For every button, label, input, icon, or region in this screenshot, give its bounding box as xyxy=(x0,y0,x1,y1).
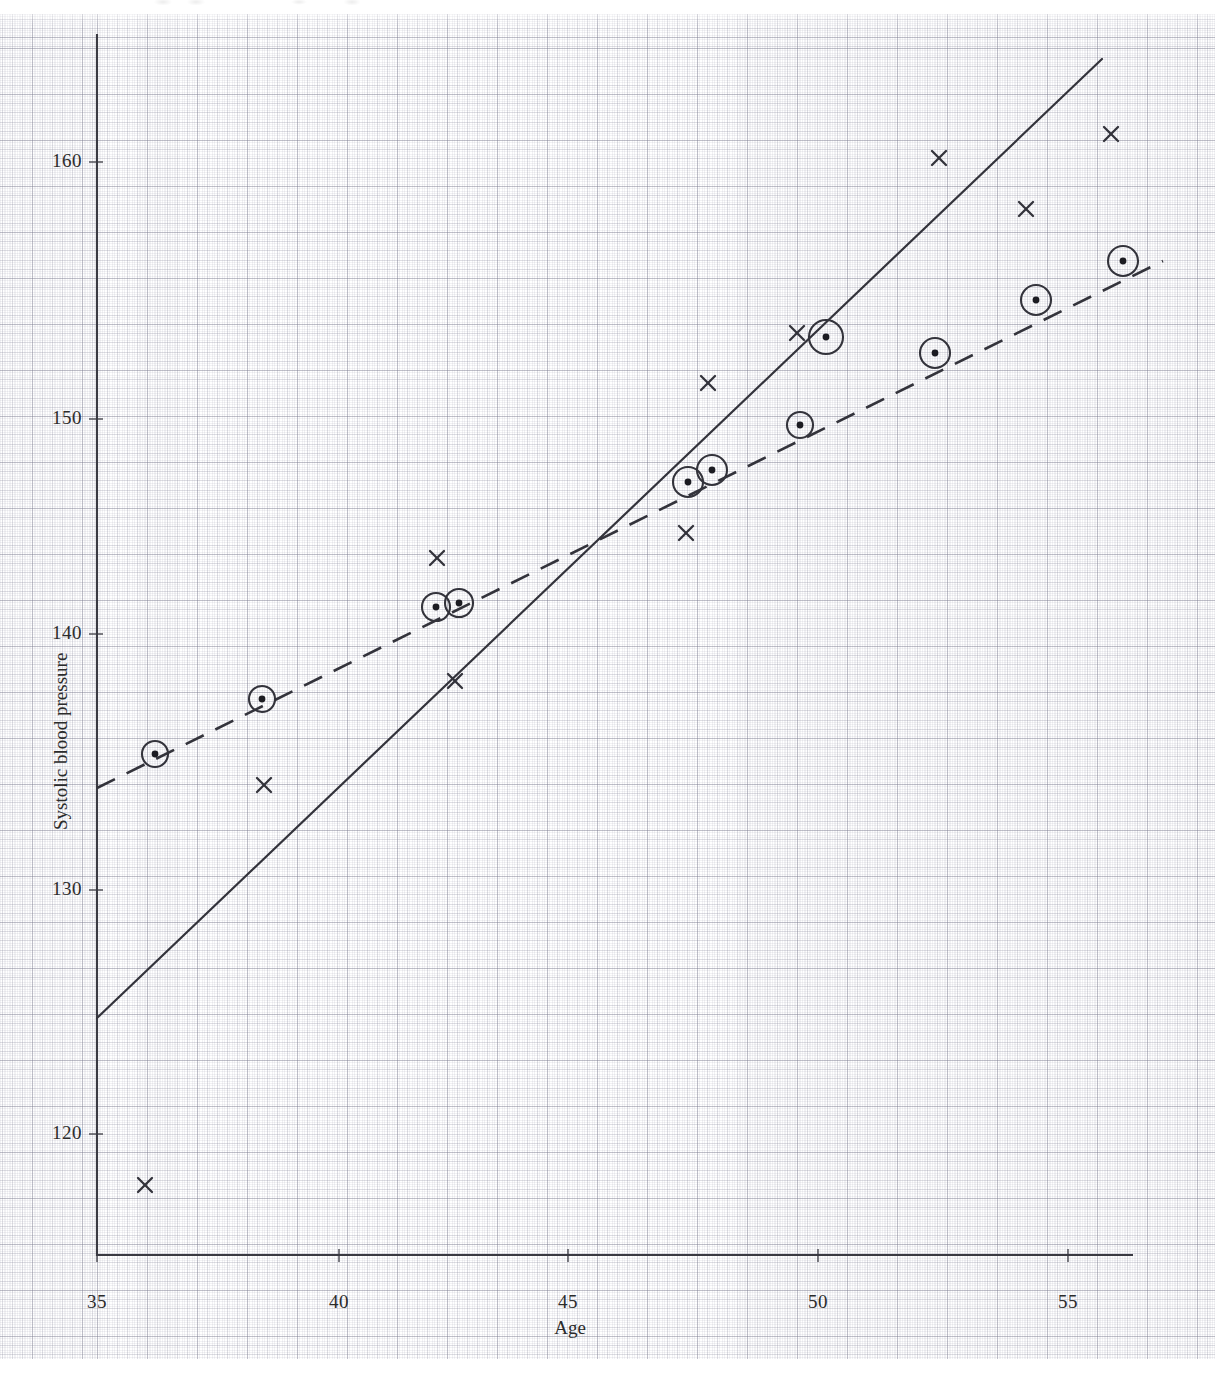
x-marker xyxy=(1019,202,1033,216)
x-tick-label-45: 45 xyxy=(538,1291,598,1313)
x-tick-label-55: 55 xyxy=(1038,1291,1098,1313)
y-tick-label-130: 130 xyxy=(10,878,82,900)
scatter-plot-figure: 160 150 140 130 120 35 40 45 50 55 Systo… xyxy=(0,0,1215,1382)
y-tick-label-140: 140 xyxy=(10,622,82,644)
plot-canvas xyxy=(0,0,1215,1382)
axis-frame xyxy=(96,34,1133,1256)
circled-dot xyxy=(920,338,950,368)
observed-x-markers xyxy=(138,127,1118,1192)
x-marker xyxy=(257,778,271,792)
x-marker xyxy=(430,551,444,565)
circled-dot xyxy=(673,467,703,497)
x-marker xyxy=(932,151,946,165)
x-marker xyxy=(1104,127,1118,141)
y-tick-label-120: 120 xyxy=(10,1122,82,1144)
circled-dot xyxy=(809,320,843,354)
y-tick-label-150: 150 xyxy=(10,407,82,429)
x-marker xyxy=(701,376,715,390)
circled-dot xyxy=(1021,285,1051,315)
circled-dot xyxy=(697,455,727,485)
circled-dot xyxy=(249,686,275,712)
x-marker xyxy=(138,1178,152,1192)
x-tick-label-40: 40 xyxy=(309,1291,369,1313)
x-marker xyxy=(790,326,804,340)
x-axis-title: Age xyxy=(540,1317,600,1339)
robust-fit-line xyxy=(97,261,1163,788)
y-axis-title: Systolic blood pressure xyxy=(50,653,72,830)
fitted-circled-dots xyxy=(142,246,1138,767)
x-marker xyxy=(679,526,693,540)
x-tick-label-35: 35 xyxy=(67,1291,127,1313)
x-tick-label-50: 50 xyxy=(788,1291,848,1313)
y-tick-label-160: 160 xyxy=(10,150,82,172)
circled-dot xyxy=(1108,246,1138,276)
circled-dot xyxy=(787,412,813,438)
